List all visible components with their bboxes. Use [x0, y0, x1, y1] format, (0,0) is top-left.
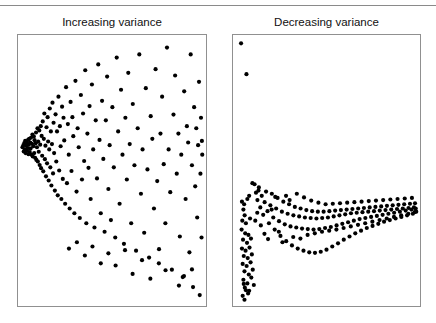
data-point	[120, 153, 124, 157]
data-point	[313, 231, 317, 235]
data-point	[69, 169, 73, 173]
data-point	[288, 224, 292, 228]
data-point	[283, 222, 287, 226]
panel-left-title: Increasing variance	[17, 16, 207, 29]
data-point	[389, 207, 393, 211]
data-point	[324, 202, 328, 206]
data-point	[352, 200, 356, 204]
data-point	[301, 249, 305, 253]
data-point	[109, 218, 113, 222]
data-point	[144, 86, 148, 90]
data-point	[56, 95, 60, 99]
data-point	[76, 126, 80, 130]
data-point	[316, 201, 320, 205]
data-point	[32, 151, 36, 155]
data-point	[374, 198, 378, 202]
data-point	[126, 71, 130, 75]
data-point	[369, 215, 373, 219]
data-point	[385, 216, 389, 220]
top-divider-rule	[0, 5, 436, 6]
data-point	[123, 248, 127, 252]
data-point	[167, 147, 171, 151]
data-point	[239, 41, 243, 45]
data-point	[256, 188, 260, 192]
data-point	[356, 223, 360, 227]
data-point	[116, 129, 120, 133]
data-point	[309, 216, 313, 220]
data-point	[99, 211, 103, 215]
data-point	[241, 294, 245, 298]
data-point	[39, 124, 43, 128]
data-point	[273, 195, 277, 199]
data-point	[40, 154, 44, 158]
data-point	[101, 157, 105, 161]
data-point	[332, 214, 336, 218]
data-point	[68, 206, 72, 210]
data-point	[139, 192, 143, 196]
data-point	[85, 131, 89, 135]
data-point	[147, 255, 151, 259]
data-point	[410, 196, 414, 200]
data-point	[131, 102, 135, 106]
data-point	[337, 213, 341, 217]
data-point	[112, 165, 116, 169]
data-point	[270, 207, 274, 211]
data-point	[370, 220, 374, 224]
data-point	[53, 112, 57, 116]
data-point	[339, 208, 343, 212]
data-point	[388, 197, 392, 201]
data-point	[171, 112, 175, 116]
data-point	[244, 72, 248, 76]
data-point	[66, 122, 70, 126]
data-point	[350, 207, 354, 211]
data-point	[241, 278, 245, 282]
data-point	[392, 215, 396, 219]
data-point	[378, 209, 382, 213]
data-point	[145, 167, 149, 171]
data-point	[190, 163, 194, 167]
data-point	[97, 138, 101, 142]
data-point	[44, 174, 48, 178]
data-point	[262, 232, 266, 236]
data-point	[67, 153, 71, 157]
data-point	[165, 45, 169, 49]
data-point	[291, 235, 295, 239]
data-point	[314, 216, 318, 220]
data-point	[75, 240, 79, 244]
data-point	[376, 222, 380, 226]
data-point	[35, 145, 39, 149]
data-point	[324, 248, 328, 252]
data-point	[363, 216, 367, 220]
data-point	[61, 116, 65, 120]
data-point	[108, 143, 112, 147]
data-point	[196, 143, 200, 147]
data-point	[78, 216, 82, 220]
data-point	[343, 212, 347, 216]
data-point	[291, 213, 295, 217]
data-point	[160, 95, 164, 99]
data-point	[240, 247, 244, 251]
data-point	[73, 79, 77, 83]
data-point	[342, 226, 346, 230]
data-point	[268, 203, 272, 207]
data-point	[242, 269, 246, 273]
data-point	[386, 212, 390, 216]
data-point	[365, 226, 369, 230]
data-point	[249, 236, 253, 240]
data-point	[259, 223, 263, 227]
data-point	[359, 229, 363, 233]
data-point	[247, 245, 251, 249]
data-point	[243, 213, 247, 217]
data-point	[137, 52, 141, 56]
data-point	[198, 293, 202, 297]
data-point	[264, 190, 268, 194]
data-point	[140, 258, 144, 262]
data-point	[396, 203, 400, 207]
data-point	[253, 219, 257, 223]
data-point	[59, 197, 63, 201]
data-point	[63, 202, 67, 206]
data-point	[261, 213, 265, 217]
data-point	[92, 225, 96, 229]
data-point	[345, 207, 349, 211]
data-point	[349, 224, 353, 228]
